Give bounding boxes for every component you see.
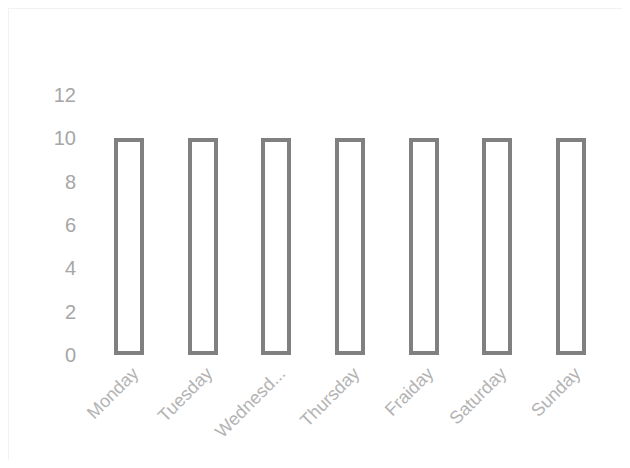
x-label-slot: Wednesd... [239,358,313,458]
x-axis-category-label: Monday [84,364,142,422]
bar[interactable] [556,138,586,355]
bar[interactable] [188,138,218,355]
bar[interactable] [335,138,365,355]
y-axis-tick-label: 0 [38,345,76,365]
chart-border-top [8,8,622,9]
x-label-slot: Thursday [313,358,387,458]
chart-border-left [8,8,9,460]
y-axis-tick-label: 10 [38,128,76,148]
plot-area [92,95,608,355]
bar-slot [461,95,535,355]
bar-slot [166,95,240,355]
x-label-slot: Fraiday [387,358,461,458]
y-axis-tick-label: 4 [38,258,76,278]
bar[interactable] [409,138,439,355]
y-axis-tick-label: 6 [38,215,76,235]
x-axis-category-label: Sunday [528,364,584,420]
x-label-slot: Monday [92,358,166,458]
y-axis-tick-labels: 024681012 [38,95,76,355]
x-label-slot: Sunday [534,358,608,458]
bar[interactable] [482,138,512,355]
bar[interactable] [261,138,291,355]
x-axis-category-labels: MondayTuesdayWednesd...ThursdayFraidaySa… [92,358,608,458]
y-axis-tick-label: 8 [38,172,76,192]
bar-chart: 024681012 MondayTuesdayWednesd...Thursda… [0,0,630,468]
bar-slot [239,95,313,355]
x-label-slot: Saturday [461,358,535,458]
x-axis-category-label: Fraiday [381,364,436,419]
bar-slot [534,95,608,355]
bar-slot [92,95,166,355]
x-label-slot: Tuesday [166,358,240,458]
bar[interactable] [114,138,144,355]
y-axis-tick-label: 12 [38,85,76,105]
y-axis-tick-label: 2 [38,302,76,322]
bar-slot [313,95,387,355]
bars-layer [92,95,608,355]
bar-slot [387,95,461,355]
